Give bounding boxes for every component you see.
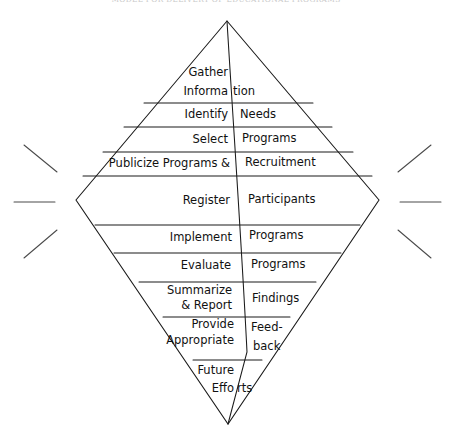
band-0-right-label-line2: tion bbox=[233, 85, 283, 97]
sparkle-left-lower bbox=[24, 230, 57, 258]
sparkle-right-upper bbox=[398, 145, 431, 172]
sparkle-right-lower bbox=[398, 230, 431, 258]
band-6-right-label: Programs bbox=[251, 258, 346, 270]
band-3-left-label: Publicize Programs & bbox=[100, 157, 230, 169]
band-9-right-label-line2: rts bbox=[237, 382, 287, 394]
band-3-right-label: Recruitment bbox=[245, 156, 355, 168]
band-9-left-label-line2: Effo bbox=[152, 382, 234, 394]
band-2-right-label: Programs bbox=[242, 132, 332, 144]
band-1-left-label: Identify bbox=[148, 108, 228, 120]
sparkle-group-left bbox=[14, 145, 57, 258]
band-1-right-label: Needs bbox=[240, 108, 320, 120]
sparkle-group-right bbox=[398, 145, 441, 258]
band-8-right-label-line1: Feed- bbox=[251, 321, 321, 333]
band-8-left-label-line2: Appropriate bbox=[140, 334, 234, 346]
band-8-left-label-line1: Provide bbox=[150, 318, 234, 330]
band-9-left-label-line1: Future bbox=[158, 364, 234, 376]
band-5-left-label: Implement bbox=[140, 231, 232, 243]
band-4-left-label: Register bbox=[145, 194, 230, 206]
band-0-left-label-line1: Gather bbox=[150, 66, 228, 78]
band-7-right-label: Findings bbox=[252, 292, 342, 304]
band-0-left-label-line2: Informa bbox=[132, 85, 228, 97]
diagram-page: MODEL FOR DELIVERY OF EDUCATIONAL PROGRA… bbox=[0, 0, 451, 448]
band-2-left-label: Select bbox=[148, 133, 228, 145]
band-4-right-label: Participants bbox=[248, 193, 358, 205]
band-7-left-label-line1: Summarize bbox=[142, 284, 232, 296]
band-7-left-label-line2: & Report bbox=[142, 299, 232, 311]
sparkle-left-upper bbox=[24, 145, 57, 172]
band-5-right-label: Programs bbox=[249, 229, 344, 241]
band-8-right-label-line2: back bbox=[253, 340, 323, 352]
band-6-left-label: Evaluate bbox=[146, 259, 231, 271]
